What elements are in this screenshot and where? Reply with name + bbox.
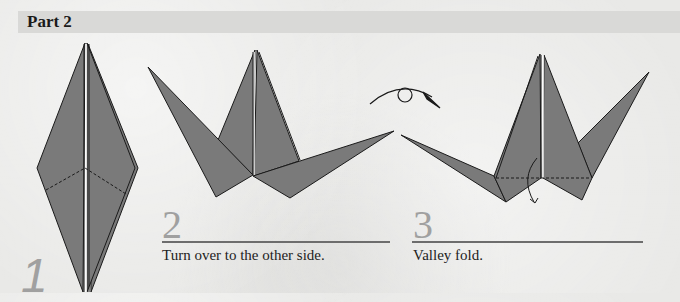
- step-3-number: 3: [413, 205, 433, 245]
- step-2-figure: [148, 50, 394, 198]
- step-3-caption: Valley fold.: [413, 247, 483, 264]
- step-3-figure: [401, 54, 649, 202]
- turn-over-arrow-icon: [370, 88, 440, 108]
- step-1-number: 1: [21, 252, 48, 300]
- step-2-number: 2: [162, 205, 182, 245]
- step-3-divider: [412, 241, 643, 243]
- step-2-caption: Turn over to the other side.: [162, 247, 325, 264]
- step-2-divider: [162, 241, 390, 243]
- step-1-figure: [37, 43, 138, 292]
